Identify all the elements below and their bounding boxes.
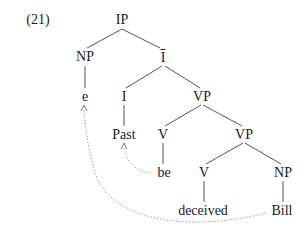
node-v-deceived: V (199, 165, 209, 181)
node-be: be (157, 165, 170, 181)
edge-vp-v (165, 105, 201, 126)
syntax-tree-diagram: (21) IP NP I e I VP Past V VP be V NP de… (0, 0, 307, 233)
edge-vp-np (245, 143, 281, 164)
edge-ibar-i (126, 66, 162, 88)
node-v-be: V (158, 127, 168, 143)
edge-vp-vp (203, 105, 242, 126)
node-i: I (122, 89, 127, 105)
edge-ibar-vp (165, 66, 200, 88)
movement-be-to-past (124, 146, 151, 173)
movement-bill-to-e (84, 108, 266, 222)
node-vp-lower: VP (235, 127, 253, 143)
node-vp-upper: VP (193, 89, 211, 105)
tree-edges (0, 0, 307, 233)
node-bill: Bill (271, 203, 292, 219)
node-e-trace: e (82, 89, 88, 105)
node-np-object: NP (274, 165, 292, 181)
edge-vp-v2 (206, 143, 243, 164)
node-np-subject: NP (76, 49, 94, 65)
node-deceived: deceived (178, 203, 228, 219)
edge-ip-ibar (122, 29, 160, 48)
example-number: (21) (26, 12, 49, 28)
node-i-bar: I (161, 50, 166, 66)
edge-ip-np (87, 29, 122, 48)
node-ip: IP (116, 12, 128, 28)
node-past: Past (112, 127, 135, 143)
